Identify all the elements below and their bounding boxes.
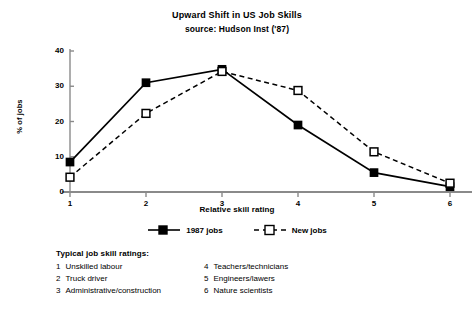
data-point-marker	[370, 169, 377, 176]
notes-item-label: Administrative/construction	[65, 286, 161, 295]
y-tick-label: 0	[46, 187, 64, 196]
notes-item: 4 Teachers/technicians	[204, 262, 288, 271]
notes-item-number: 5	[204, 274, 208, 283]
data-point-marker	[66, 173, 74, 181]
notes-item-number: 6	[204, 286, 208, 295]
data-point-marker	[142, 79, 149, 86]
data-point-marker	[218, 68, 226, 76]
y-tick-label: 30	[46, 81, 64, 90]
x-tick-label: 1	[60, 199, 80, 208]
series-line-0	[70, 69, 450, 186]
y-axis-label: % of jobs	[15, 87, 24, 147]
notes-item-label: Truck driver	[65, 274, 107, 283]
legend-label-series-0: 1987 jobs	[186, 226, 222, 235]
notes-item-label: Nature scientists	[213, 286, 272, 295]
y-tick-label: 20	[46, 117, 64, 126]
data-point-marker	[66, 158, 73, 165]
notes-item-number: 3	[56, 286, 60, 295]
data-point-marker	[370, 148, 378, 156]
notes-item: 2 Truck driver	[56, 274, 204, 283]
notes-item: 5 Engineers/lawers	[204, 274, 288, 283]
legend-entry-series-1: New jobs	[253, 224, 327, 236]
legend-marker-open-square-icon	[253, 224, 287, 236]
data-point-marker	[294, 121, 301, 128]
notes-grid: 1 Unskilled labour 2 Truck driver 3 Admi…	[56, 262, 456, 295]
chart-figure: Upward Shift in US Job Skills source: Hu…	[0, 0, 474, 310]
notes-column-left: 1 Unskilled labour 2 Truck driver 3 Admi…	[56, 262, 204, 295]
chart-legend: 1987 jobs New jobs	[0, 224, 474, 236]
data-point-marker	[142, 109, 150, 117]
notes-item: 1 Unskilled labour	[56, 262, 204, 271]
series-line-1	[70, 71, 450, 183]
notes-item-label: Unskilled labour	[65, 262, 122, 271]
notes-item-number: 2	[56, 274, 60, 283]
x-tick-label: 4	[288, 199, 308, 208]
y-tick-label: 10	[46, 152, 64, 161]
data-point-marker	[446, 179, 454, 187]
x-tick-label: 6	[440, 199, 460, 208]
notes-heading: Typical job skill ratings:	[56, 249, 456, 258]
legend-entry-series-0: 1987 jobs	[147, 224, 222, 236]
x-tick-label: 5	[364, 199, 384, 208]
notes-block: Typical job skill ratings: 1 Unskilled l…	[56, 249, 456, 295]
legend-label-series-1: New jobs	[292, 226, 327, 235]
x-tick-label: 3	[212, 199, 232, 208]
notes-item-number: 1	[56, 262, 60, 271]
y-tick-label: 40	[46, 46, 64, 55]
data-point-marker	[294, 87, 302, 95]
notes-item-label: Engineers/lawers	[213, 274, 274, 283]
notes-item: 3 Administrative/construction	[56, 286, 204, 295]
legend-marker-filled-square-icon	[147, 224, 181, 236]
notes-item-number: 4	[204, 262, 208, 271]
notes-item: 6 Nature scientists	[204, 286, 288, 295]
notes-column-right: 4 Teachers/technicians 5 Engineers/lawer…	[204, 262, 288, 295]
notes-item-label: Teachers/technicians	[213, 262, 288, 271]
x-tick-label: 2	[136, 199, 156, 208]
